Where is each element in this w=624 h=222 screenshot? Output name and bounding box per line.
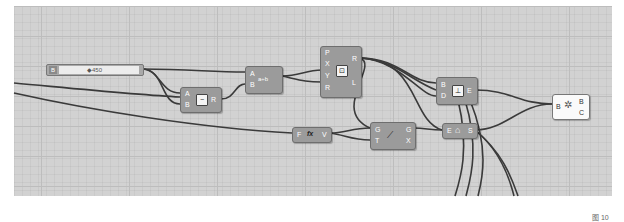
output-port-v[interactable]: V xyxy=(322,131,327,139)
shape-node[interactable]: E ⌂ S xyxy=(442,123,478,139)
output-port-c[interactable]: C xyxy=(579,109,584,117)
division-icon: a÷b xyxy=(258,75,268,83)
slider-label: B xyxy=(49,66,57,74)
output-port-s[interactable]: S xyxy=(468,127,473,135)
input-port-f[interactable]: F xyxy=(297,131,301,139)
output-port-x[interactable]: X xyxy=(406,137,411,145)
output-port-r[interactable]: R xyxy=(352,55,357,63)
input-port-b[interactable]: B xyxy=(185,101,190,109)
input-port-y[interactable]: Y xyxy=(325,72,330,80)
point-node[interactable]: P X Y R ⊡ R L xyxy=(320,46,362,98)
input-port-b[interactable]: B xyxy=(250,81,255,89)
division-node[interactable]: A B a÷b xyxy=(245,66,283,94)
output-port-b[interactable]: B xyxy=(579,98,584,106)
grasshopper-canvas[interactable] xyxy=(14,6,612,196)
input-port-b[interactable]: B xyxy=(441,81,446,89)
bounds-icon: ⊥ xyxy=(452,85,464,97)
slider-value: ◆450 xyxy=(87,66,102,74)
cluster-icon: ✲ xyxy=(564,101,572,109)
output-param-node[interactable]: B ✲ B C xyxy=(552,94,590,120)
curve-icon: ⟋ xyxy=(387,131,393,139)
input-port-b[interactable]: B xyxy=(556,103,561,111)
point-icon: ⊡ xyxy=(336,65,348,77)
input-port-g[interactable]: G xyxy=(375,126,380,134)
output-port-r[interactable]: R xyxy=(211,96,216,104)
output-port-e[interactable]: E xyxy=(467,87,472,95)
output-port-l[interactable]: L xyxy=(352,79,356,87)
input-port-p[interactable]: P xyxy=(325,49,330,57)
input-port-t[interactable]: T xyxy=(375,137,379,145)
input-port-e[interactable]: E xyxy=(447,127,452,135)
graph-mapper-node[interactable]: F fx V xyxy=(292,127,332,143)
output-port-g[interactable]: G xyxy=(406,126,411,134)
input-port-r[interactable]: R xyxy=(325,84,330,92)
slider-track[interactable]: ◆450 xyxy=(59,66,139,74)
number-slider[interactable]: B ◆450 xyxy=(46,64,144,76)
function-icon: fx xyxy=(307,130,313,138)
subtract-icon: − xyxy=(196,94,208,106)
input-port-x[interactable]: X xyxy=(325,60,330,68)
input-port-a[interactable]: A xyxy=(250,70,255,78)
input-port-a[interactable]: A xyxy=(185,90,190,98)
bounds-node[interactable]: B D ⊥ E xyxy=(436,77,478,105)
curve-node[interactable]: G T ⟋ G X xyxy=(370,122,416,150)
subtract-node[interactable]: A B − R xyxy=(180,87,222,113)
figure-caption: 图 10 xyxy=(592,212,609,222)
input-port-d[interactable]: D xyxy=(441,92,446,100)
shape-icon: ⌂ xyxy=(455,126,460,134)
